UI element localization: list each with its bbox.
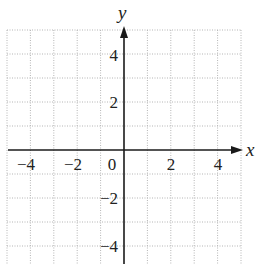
- x-tick-label: −4: [17, 155, 36, 174]
- x-axis-label: x: [245, 139, 255, 160]
- x-tick-label: 4: [214, 155, 223, 174]
- coordinate-plane: x y −4 −2 0 2 4 4 2 −2 −4: [0, 0, 256, 264]
- x-tick-label: −2: [64, 155, 82, 174]
- x-tick-label: 0: [108, 155, 117, 174]
- y-tick-label: 2: [110, 93, 119, 112]
- y-tick-label: −2: [100, 189, 118, 208]
- y-axis-label: y: [116, 2, 127, 23]
- y-tick-label: 4: [110, 46, 119, 65]
- x-tick-label: 2: [167, 155, 176, 174]
- y-tick-label: −4: [100, 237, 119, 256]
- y-axis-arrow-icon: [120, 26, 128, 38]
